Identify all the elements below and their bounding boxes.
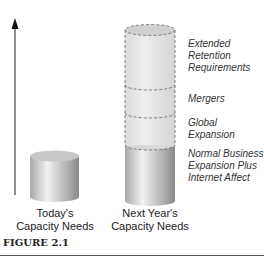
label-line: Global bbox=[188, 117, 235, 129]
label-line: Mergers bbox=[188, 93, 225, 105]
caption-line: Next Year's bbox=[109, 207, 191, 220]
today-cylinder bbox=[30, 151, 79, 203]
label-line: Normal Business bbox=[188, 148, 264, 160]
caption-line: Capacity Needs bbox=[109, 220, 191, 233]
figure-label: FIGURE 2.1 bbox=[3, 237, 69, 248]
next-year-caption: Next Year's Capacity Needs bbox=[109, 207, 191, 233]
caption-line: Today's bbox=[14, 207, 96, 220]
bottom-rule bbox=[0, 255, 264, 256]
segment-label-global-expansion: Global Expansion bbox=[188, 117, 235, 141]
label-line: Extended bbox=[188, 38, 250, 50]
caption-line: Capacity Needs bbox=[14, 220, 96, 233]
up-arrow-icon bbox=[12, 18, 19, 195]
segment-label-mergers: Mergers bbox=[188, 93, 225, 105]
label-line: Internet Affect bbox=[188, 172, 264, 184]
today-caption: Today's Capacity Needs bbox=[14, 207, 96, 233]
next-year-cylinder bbox=[125, 25, 175, 207]
label-line: Requirements bbox=[188, 62, 250, 74]
label-line: Retention bbox=[188, 50, 250, 62]
segment-label-normal-business: Normal Business Expansion Plus Internet … bbox=[188, 148, 264, 184]
label-line: Expansion Plus bbox=[188, 160, 264, 172]
segment-label-extended-retention: Extended Retention Requirements bbox=[188, 38, 250, 74]
label-line: Expansion bbox=[188, 129, 235, 141]
